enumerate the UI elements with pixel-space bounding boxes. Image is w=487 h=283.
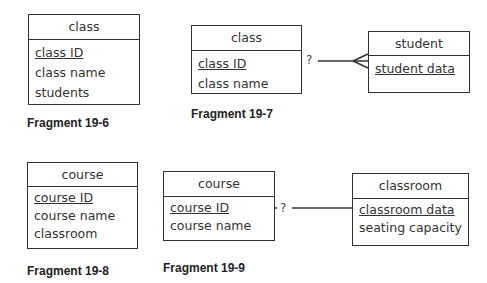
relationship-lines xyxy=(0,0,487,283)
